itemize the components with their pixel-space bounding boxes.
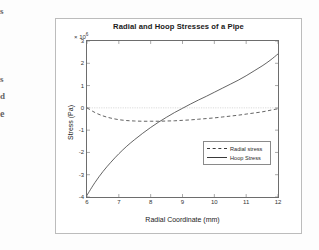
- y-tick-label: -4: [79, 194, 84, 200]
- margin-text-fragment: e: [0, 108, 14, 119]
- x-tick-label: 12: [275, 199, 282, 205]
- x-tick-label: 8: [149, 199, 152, 205]
- plot-area: -4-3-2-10123 6789101112: [86, 40, 279, 198]
- y-tick-label: 2: [81, 60, 84, 66]
- document-page: s s d e Radial and Hoop Stresses of a Pi…: [0, 0, 319, 250]
- y-tick-label: 0: [81, 105, 84, 111]
- legend-label: Hoop Stress: [230, 155, 261, 161]
- legend-label: Radial stress: [230, 146, 262, 152]
- legend-item-hoop-stress: Hoop Stress: [207, 153, 267, 162]
- legend-swatch-dashed-icon: [207, 148, 227, 149]
- margin-text-fragment: s: [0, 6, 14, 16]
- series-line-radial-stress: [87, 108, 278, 121]
- x-tick-label: 9: [181, 199, 184, 205]
- x-axis-label: Radial Coordinate (mm): [86, 216, 279, 223]
- x-tick-label: 10: [211, 199, 218, 205]
- y-tick-label: 1: [81, 83, 84, 89]
- x-tick-label: 11: [243, 199, 249, 205]
- y-tick-label: 3: [81, 38, 84, 44]
- chart-legend: Radial stress Hoop Stress: [203, 141, 271, 165]
- plot-svg: [87, 41, 278, 197]
- margin-text-fragment: d: [0, 91, 14, 101]
- x-tick-label: 7: [117, 199, 120, 205]
- legend-swatch-solid-icon: [207, 157, 227, 158]
- margin-text-fragment: s: [0, 74, 14, 84]
- y-axis-exponent-power: 6: [86, 32, 89, 37]
- y-tick-label: -3: [79, 172, 84, 178]
- figure-frame: Radial and Hoop Stresses of a Pipe × 106…: [55, 18, 302, 234]
- y-tick-label: -2: [79, 149, 84, 155]
- y-axis-label: Stress (Pa): [67, 83, 74, 163]
- legend-item-radial-stress: Radial stress: [207, 144, 267, 153]
- series-line-hoop-stress: [87, 54, 278, 195]
- y-tick-label: -1: [79, 127, 84, 133]
- chart-title: Radial and Hoop Stresses of a Pipe: [56, 22, 301, 31]
- x-tick-label: 6: [85, 199, 88, 205]
